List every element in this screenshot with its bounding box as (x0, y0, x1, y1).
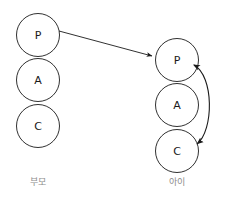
node-label-parent-c: C (34, 120, 42, 133)
node-parent-p[interactable]: P (17, 14, 60, 57)
group-caption-parent: 부모 (30, 177, 46, 187)
node-label-child-c: C (173, 145, 181, 158)
edge-parent-p-to-child-p (59, 31, 152, 56)
diagram-canvas: P A C 부모 P A C (0, 0, 232, 200)
group-child: P A C 아이 (156, 39, 199, 188)
node-label-child-a: A (173, 99, 181, 112)
node-child-p[interactable]: P (156, 39, 199, 82)
node-child-a[interactable]: A (156, 84, 199, 127)
group-caption-child: 아이 (169, 177, 185, 187)
node-parent-a[interactable]: A (17, 59, 60, 102)
node-parent-c[interactable]: C (17, 105, 60, 148)
node-label-parent-a: A (34, 74, 42, 87)
group-parent: P A C 부모 (17, 14, 60, 188)
node-child-c[interactable]: C (156, 130, 199, 173)
node-label-child-p: P (174, 54, 181, 67)
node-label-parent-p: P (35, 29, 42, 42)
diagram-root: P A C 부모 P A C (0, 0, 232, 200)
